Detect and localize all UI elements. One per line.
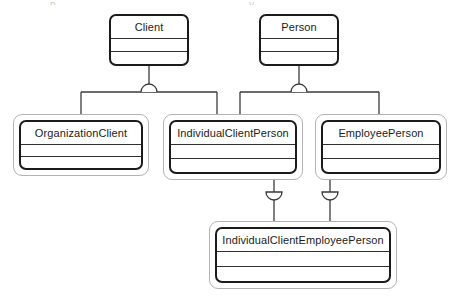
class-name-person: Person <box>261 16 337 39</box>
class-name-organizationclient: OrganizationClient <box>21 122 141 145</box>
attributes-compartment <box>111 39 187 52</box>
constraint-arc-employeeperson-set <box>322 192 338 200</box>
class-box: OrganizationClient <box>19 120 143 170</box>
top-clip-artifact-left: p <box>50 0 56 5</box>
attributes-compartment <box>171 145 295 159</box>
class-box: IndividualClientPerson <box>169 120 297 174</box>
class-node-individualclientperson[interactable]: IndividualClientPerson <box>163 114 303 180</box>
class-node-client[interactable]: Client <box>109 14 189 66</box>
class-name-individualclientemployeeperson: IndividualClientEmployeePerson <box>217 229 389 252</box>
operations-compartment <box>323 159 439 172</box>
attributes-compartment <box>217 252 389 267</box>
class-node-individualclientemployeeperson[interactable]: IndividualClientEmployeePerson <box>209 221 397 289</box>
operations-compartment <box>217 267 389 281</box>
class-box: Person <box>259 14 339 66</box>
attributes-compartment <box>261 39 337 52</box>
class-name-individualclientperson: IndividualClientPerson <box>171 122 295 145</box>
class-name-client: Client <box>111 16 187 39</box>
constraint-arc-individualclientperson-set <box>266 192 282 200</box>
uml-diagram-canvas: p y <box>0 0 458 296</box>
class-node-organizationclient[interactable]: OrganizationClient <box>13 114 149 176</box>
class-box: Client <box>109 14 189 66</box>
operations-compartment <box>111 52 187 64</box>
class-node-person[interactable]: Person <box>259 14 339 66</box>
class-box: EmployeePerson <box>321 120 441 174</box>
constraint-arc-person-set <box>291 84 307 92</box>
operations-compartment <box>21 157 141 168</box>
top-clip-artifact-right: y <box>249 0 254 5</box>
attributes-compartment <box>323 145 439 159</box>
constraint-arc-client-set <box>141 84 157 92</box>
attributes-compartment <box>21 145 141 157</box>
class-node-employeeperson[interactable]: EmployeePerson <box>315 114 447 180</box>
operations-compartment <box>171 159 295 172</box>
operations-compartment <box>261 52 337 64</box>
class-box: IndividualClientEmployeePerson <box>215 227 391 283</box>
class-name-employeeperson: EmployeePerson <box>323 122 439 145</box>
